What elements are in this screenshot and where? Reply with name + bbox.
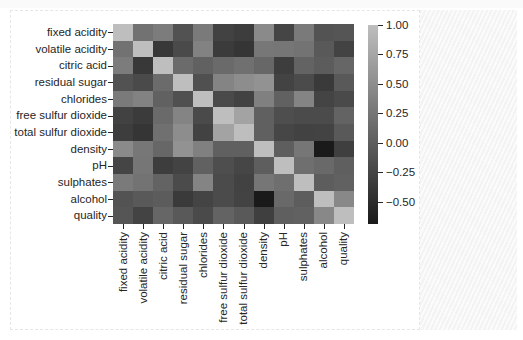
heatmap-cell — [274, 24, 295, 41]
heatmap-cell — [173, 191, 194, 208]
heatmap-cell — [234, 141, 255, 158]
x-tick-label: residual sugar — [177, 232, 189, 304]
heatmap-cell — [213, 24, 234, 41]
colorbar-tick-label: −0.25 — [386, 166, 415, 178]
heatmap-cell — [234, 174, 255, 191]
heatmap-cell — [153, 191, 174, 208]
heatmap-cell — [334, 191, 355, 208]
colorbar-tick-label: 0.50 — [386, 78, 408, 90]
heatmap-cell — [234, 124, 255, 141]
heatmap-cell — [213, 207, 234, 224]
x-tick — [284, 224, 285, 229]
heatmap-cell — [334, 91, 355, 108]
heatmap-cell — [314, 174, 335, 191]
correlation-heatmap — [113, 24, 354, 224]
x-tick — [123, 224, 124, 229]
y-tick-label: total sulfur dioxide — [14, 126, 107, 138]
heatmap-cell — [153, 141, 174, 158]
heatmap-cell — [314, 191, 335, 208]
heatmap-cell — [234, 91, 255, 108]
heatmap-cell — [294, 124, 315, 141]
heatmap-cell — [133, 41, 154, 58]
heatmap-cell — [254, 24, 275, 41]
heatmap-cell — [234, 207, 255, 224]
x-tick-label: volatile acidity — [137, 232, 149, 304]
heatmap-cell — [173, 74, 194, 91]
y-tick-label: density — [71, 143, 107, 155]
heatmap-cell — [193, 74, 214, 91]
heatmap-cell — [133, 24, 154, 41]
heatmap-cell — [294, 74, 315, 91]
heatmap-cell — [113, 91, 134, 108]
heatmap-cell — [314, 141, 335, 158]
heatmap-cell — [274, 91, 295, 108]
x-tick-label: fixed acidity — [117, 232, 129, 292]
top-strip — [0, 0, 523, 8]
heatmap-cell — [314, 74, 335, 91]
heatmap-cell — [254, 124, 275, 141]
heatmap-cell — [294, 141, 315, 158]
heatmap-cell — [314, 207, 335, 224]
heatmap-cell — [173, 207, 194, 224]
heatmap-cell — [334, 74, 355, 91]
heatmap-cell — [254, 174, 275, 191]
heatmap-cell — [213, 107, 234, 124]
y-tick-label: volatile acidity — [35, 43, 107, 55]
heatmap-cell — [254, 57, 275, 74]
heatmap-cell — [193, 141, 214, 158]
heatmap-cell — [133, 107, 154, 124]
heatmap-cell — [193, 157, 214, 174]
heatmap-cell — [153, 174, 174, 191]
scroll-gutter — [420, 10, 517, 330]
x-tick-label: total sulfur dioxide — [237, 232, 249, 325]
colorbar-tick — [378, 84, 383, 85]
heatmap-cell — [113, 157, 134, 174]
x-tick — [304, 224, 305, 229]
heatmap-cell — [334, 107, 355, 124]
heatmap-cell — [133, 157, 154, 174]
heatmap-cell — [153, 107, 174, 124]
colorbar-tick-label: 1.00 — [386, 19, 408, 31]
y-tick — [108, 149, 113, 150]
heatmap-cell — [294, 91, 315, 108]
y-tick — [108, 116, 113, 117]
heatmap-cell — [133, 174, 154, 191]
colorbar — [368, 25, 378, 224]
colorbar-tick-label: 0.25 — [386, 107, 408, 119]
colorbar-tick-label: 0.00 — [386, 137, 408, 149]
heatmap-cell — [153, 207, 174, 224]
heatmap-cell — [234, 41, 255, 58]
y-tick-label: pH — [92, 159, 107, 171]
y-tick-label: fixed acidity — [47, 26, 107, 38]
heatmap-cell — [173, 57, 194, 74]
heatmap-cell — [133, 124, 154, 141]
heatmap-cell — [334, 124, 355, 141]
heatmap-cell — [314, 91, 335, 108]
heatmap-cell — [274, 107, 295, 124]
y-tick — [108, 99, 113, 100]
heatmap-cell — [294, 191, 315, 208]
x-tick-label: quality — [337, 232, 349, 265]
heatmap-cell — [113, 57, 134, 74]
heatmap-cell — [213, 124, 234, 141]
y-tick — [108, 132, 113, 133]
heatmap-cell — [294, 41, 315, 58]
heatmap-cell — [113, 207, 134, 224]
y-tick-label: chlorides — [61, 93, 107, 105]
heatmap-cell — [314, 24, 335, 41]
heatmap-cell — [294, 157, 315, 174]
heatmap-cell — [274, 124, 295, 141]
heatmap-cell — [254, 41, 275, 58]
heatmap-cell — [193, 91, 214, 108]
heatmap-cell — [294, 57, 315, 74]
heatmap-cell — [274, 57, 295, 74]
colorbar-tick-label: 0.75 — [386, 48, 408, 60]
heatmap-cell — [234, 57, 255, 74]
heatmap-cell — [133, 207, 154, 224]
y-tick — [108, 32, 113, 33]
heatmap-cell — [213, 74, 234, 91]
x-tick — [163, 224, 164, 229]
heatmap-cell — [193, 207, 214, 224]
heatmap-cell — [173, 41, 194, 58]
heatmap-cell — [113, 191, 134, 208]
